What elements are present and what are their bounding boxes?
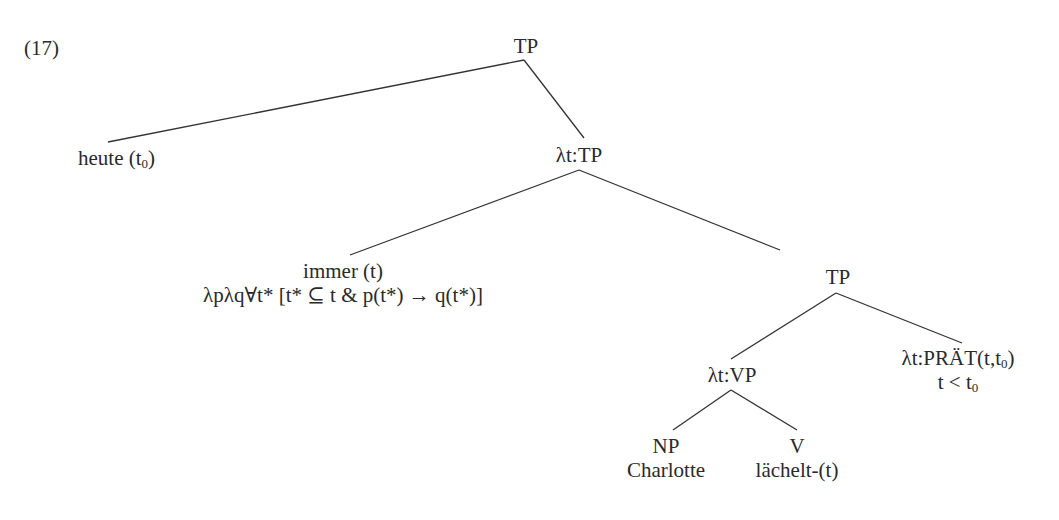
node-heute: heute (t0) [78,146,155,170]
np-word: Charlotte [627,458,705,482]
edge-root-heute [108,60,524,142]
edge-lambda-vp-v [731,390,797,430]
node-tp-inner: TP [826,265,851,289]
edge-lambda-tp-tp [579,170,780,250]
node-lambda-vp: λt:VP [708,363,757,387]
immer-formula: λpλq∀t* [t* ⊆ t & p(t*) → q(t*)] [203,283,483,307]
edge-lambda-vp-np [673,390,731,430]
node-np: NP Charlotte [627,434,705,482]
edge-lambda-tp-immer [350,170,579,255]
edge-root-lambda-tp [524,60,584,138]
immer-label: immer (t) [203,259,483,283]
node-praet: λt:PRÄT(t,t0) t < t0 [902,346,1015,394]
praet-label: λt:PRÄT(t,t0) [902,346,1015,370]
np-category: NP [627,434,705,458]
node-v: V lächelt-(t) [756,434,839,482]
node-root-tp: TP [514,34,539,58]
tree-edges [0,0,1059,520]
node-lambda-tp: λt:TP [556,143,602,167]
edge-tp-lambda-vp [731,293,836,359]
node-immer: immer (t) λpλq∀t* [t* ⊆ t & p(t*) → q(t*… [203,259,483,307]
v-word: lächelt-(t) [756,458,839,482]
v-category: V [756,434,839,458]
praet-condition: t < t0 [902,370,1015,394]
edge-tp-praet [836,293,962,343]
